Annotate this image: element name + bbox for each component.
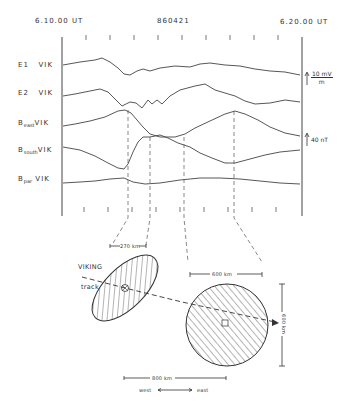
- viking-label: VIKING: [78, 263, 102, 271]
- bottom-ticks: [84, 207, 276, 212]
- left-width-label: 270 km: [120, 243, 140, 249]
- right-region-circle: [186, 284, 268, 366]
- east-label: east: [197, 387, 209, 393]
- end-time-label: 6.20.00 UT: [280, 18, 328, 26]
- b-field-scale: 40 nT: [311, 136, 328, 143]
- trace-b-par: [63, 178, 300, 184]
- bar-800km: [124, 376, 226, 380]
- trace-e2: [63, 84, 300, 108]
- date-code-label: 860421: [157, 17, 190, 25]
- trace-b-east: [63, 110, 300, 137]
- start-time-label: 6.10.00 UT: [35, 17, 83, 25]
- west-label: west: [139, 387, 152, 393]
- track-arrow-icon: [272, 319, 279, 326]
- track-label: track: [81, 283, 99, 291]
- trace-label-e2: E2 VIK: [18, 89, 53, 97]
- trace-label-b-south: BsouthVIK: [18, 146, 52, 155]
- trace-label-b-par: Bpar VIK: [18, 175, 50, 184]
- e-field-scale: 10 mV m: [311, 70, 333, 85]
- right-height-label: 600 km: [281, 314, 287, 334]
- e-scale-arrow-icon: [305, 72, 309, 85]
- top-ticks: [86, 35, 278, 40]
- west-east-arrow: [158, 389, 192, 392]
- right-width-label: 600 km: [212, 271, 232, 277]
- trace-b-south: [63, 135, 300, 169]
- trace-label-b-east: BeastVIK: [18, 119, 49, 128]
- bottom-width-label: 800 km: [152, 375, 172, 381]
- trace-label-e1: E1 VIK: [18, 61, 53, 69]
- b-scale-arrow-icon: [305, 133, 309, 146]
- trace-e1: [63, 58, 300, 75]
